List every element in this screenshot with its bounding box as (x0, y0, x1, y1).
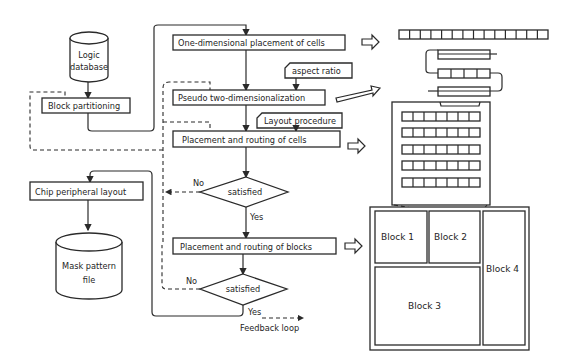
feedback-loop-label: Feedback loop (240, 323, 299, 333)
folded-cell-rows (426, 50, 502, 96)
decision-satisfied-2: satisfied No Yes (186, 274, 287, 317)
block-partitioning-label: Block partitioning (48, 101, 120, 111)
cell-grid-block (392, 102, 490, 205)
decision2-no: No (186, 276, 197, 286)
aspect-ratio-label: aspect ratio (292, 66, 341, 76)
block-4-label: Block 4 (486, 264, 519, 274)
decision1-yes: Yes (249, 212, 263, 222)
layout-flow-diagram: Logic database Block partitioning One-di… (0, 0, 567, 358)
one-dim-placement-label: One-dimensional placement of cells (178, 38, 325, 48)
block-2-label: Block 2 (434, 232, 467, 242)
pseudo-2d-box: Pseudo two-dimensionalization (173, 90, 325, 105)
decision-satisfied-1: satisfied No Yes (193, 177, 288, 222)
fat-arrow-4 (345, 239, 362, 253)
chip-peripheral-layout-label: Chip peripheral layout (35, 187, 127, 197)
mask-pattern-label-2: file (83, 275, 95, 285)
fat-arrow-2 (336, 86, 380, 102)
layout-procedure-label: Layout procedure (264, 116, 336, 126)
decision1-label: satisfied (228, 187, 262, 197)
fat-arrow-3 (348, 139, 365, 153)
layout-procedure-tag: Layout procedure (257, 113, 342, 128)
one-dim-cell-row (399, 30, 548, 39)
decision2-label: satisfied (226, 284, 260, 294)
decision1-no: No (193, 178, 204, 188)
mask-pattern-label-1: Mask pattern (62, 261, 116, 271)
mask-pattern-file-cylinder: Mask pattern file (56, 233, 122, 299)
block-1-label: Block 1 (381, 232, 414, 242)
placement-routing-cells-box: Placement and routing of cells (173, 131, 340, 147)
pseudo-2d-label: Pseudo two-dimensionalization (178, 93, 305, 103)
logic-database-cylinder: Logic database (70, 32, 108, 82)
placement-routing-blocks-label: Placement and routing of blocks (180, 242, 312, 252)
decision2-yes: Yes (247, 307, 261, 317)
chip-peripheral-layout-box: Chip peripheral layout (30, 182, 143, 200)
aspect-ratio-tag: aspect ratio (285, 63, 352, 78)
block-3-label: Block 3 (408, 301, 441, 311)
placement-routing-cells-label: Placement and routing of cells (182, 135, 307, 145)
logic-database-label-1: Logic (78, 50, 99, 60)
fat-arrow-1 (362, 35, 379, 49)
one-dim-placement-box: One-dimensional placement of cells (173, 35, 345, 50)
block-floorplan: Block 1 Block 2 Block 3 Block 4 (370, 207, 529, 350)
logic-database-label-2: database (70, 62, 108, 72)
block-partitioning-box: Block partitioning (42, 98, 130, 113)
placement-routing-blocks-box: Placement and routing of blocks (173, 238, 336, 254)
